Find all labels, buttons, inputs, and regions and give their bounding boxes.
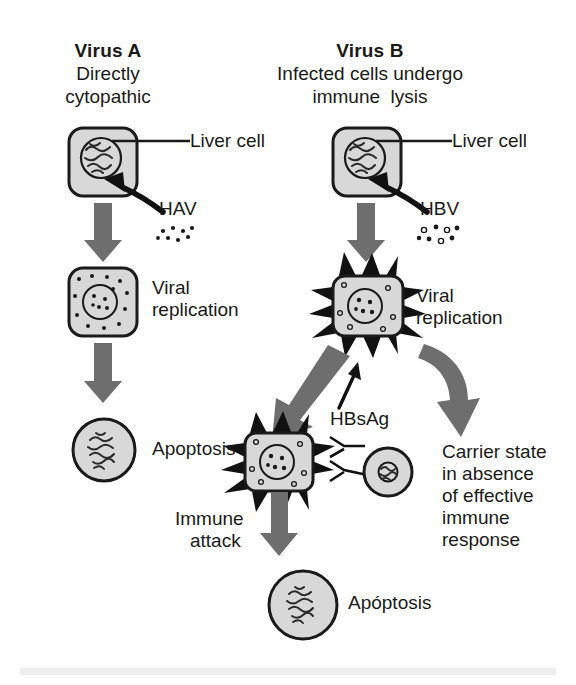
label-liver-cell-right: Liver cell <box>452 130 527 152</box>
title-virus-b: Virus B <box>300 40 440 62</box>
label-carrier-l4: immune <box>442 507 510 529</box>
label-hbv: HBV <box>420 198 459 220</box>
label-hav: HAV <box>159 198 197 220</box>
footer-bar <box>20 668 556 675</box>
label-apoptosis-left: Apoptosis <box>152 438 235 460</box>
label-immune-attack-l2: attack <box>190 530 241 552</box>
label-viral-replication-left-l2: replication <box>152 299 239 321</box>
arrow-immune-attack <box>260 492 298 556</box>
hbsag-pointer-arrow <box>339 362 361 408</box>
liver-cell-left <box>69 128 190 196</box>
apoptosis-cell-left <box>73 419 135 481</box>
label-carrier-l3: of effective <box>442 485 534 507</box>
label-liver-cell-left: Liver cell <box>190 130 265 152</box>
diagram-canvas: Virus A Directly cytopathic Virus B Infe… <box>0 0 576 685</box>
label-immune-attack-l1: Immune <box>175 508 244 530</box>
hav-virion-particles <box>156 226 194 242</box>
title-virus-a: Virus A <box>38 40 178 62</box>
viral-replication-cell-left <box>69 268 137 336</box>
label-hbsag: HBsAg <box>330 408 389 430</box>
label-carrier-l5: response <box>442 529 520 551</box>
arrow-to-carrier-state <box>418 344 480 437</box>
subtitle-virus-b-line2: immune lysis <box>250 86 490 108</box>
lymphocyte <box>364 448 412 496</box>
arrow-right-1 <box>347 203 385 262</box>
subtitle-virus-a-line2: cytopathic <box>28 86 188 108</box>
infected-cell-right <box>309 252 426 358</box>
liver-cell-right <box>333 128 452 196</box>
label-viral-replication-right-l1: Viral <box>416 285 454 307</box>
arrow-left-2 <box>84 343 122 403</box>
label-carrier-l2: in absence <box>442 463 534 485</box>
label-carrier-l1: Carrier state <box>442 441 547 463</box>
subtitle-virus-b-line1: Infected cells undergo <box>250 63 490 85</box>
subtitle-virus-a-line1: Directly <box>38 63 178 85</box>
label-apoptosis-bottom: Apóptosis <box>348 592 431 614</box>
hbv-virion-particles <box>417 225 460 244</box>
arrow-left-1 <box>84 203 122 262</box>
label-viral-replication-left-l1: Viral <box>152 277 190 299</box>
apoptosis-cell-bottom <box>269 571 337 639</box>
label-viral-replication-right-l2: replication <box>416 307 503 329</box>
